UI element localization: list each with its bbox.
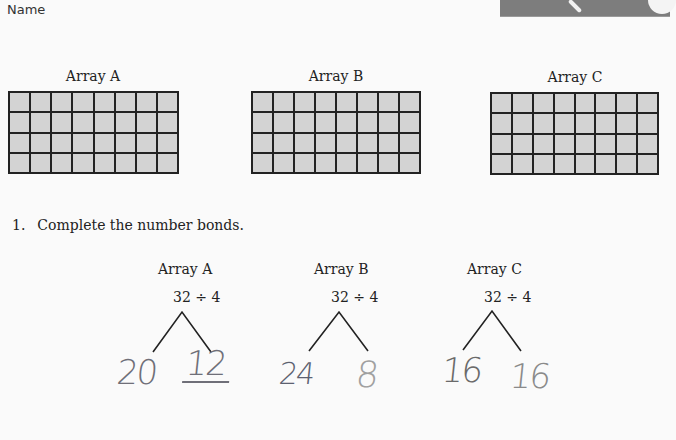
bond-c-left-answer[interactable]: 16 (440, 350, 483, 390)
bond-c-right-answer[interactable]: 16 (508, 356, 551, 396)
